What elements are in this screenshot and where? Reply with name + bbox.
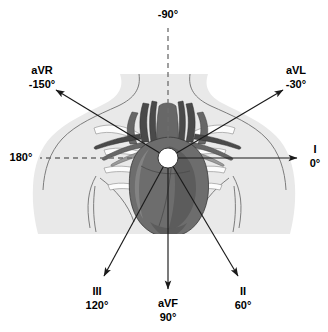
label-lead-iii-lead: III [92,285,101,297]
heart-center-origin-marker [158,148,178,168]
label-avf-angle: 90° [160,311,177,323]
label-lead-ii-lead: II [240,285,246,297]
label-lead-i-angle: 0° [310,157,321,169]
label-avr-lead: aVR [31,64,52,76]
label-lead-iii-angle: 120° [86,299,109,311]
label-lead-ii-angle: 60° [235,299,252,311]
ecg-axis-diagram: -90° 180° aVR -150° aVL -30° I 0° II 60°… [0,0,328,332]
label-avl-angle: -30° [286,78,306,90]
label-avf-lead: aVF [158,297,178,309]
hexaxial-reference-figure: -90° 180° aVR -150° aVL -30° I 0° II 60°… [0,0,328,332]
label-avl-lead: aVL [286,64,306,76]
label-lead-i-lead: I [313,143,316,155]
label-avr-angle: -150° [29,78,55,90]
label-left-horizontal-angle: 180° [10,151,33,163]
label-superior-angle: -90° [158,8,178,20]
